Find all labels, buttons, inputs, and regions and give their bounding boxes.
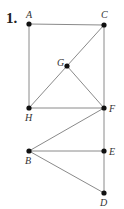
point-C <box>101 22 106 27</box>
point-A <box>26 21 31 26</box>
label-B: B <box>25 155 31 166</box>
segment-BD <box>29 151 104 193</box>
label-F: F <box>108 103 116 114</box>
point-E <box>101 148 106 153</box>
geometry-diagram: 1. ACGHFBED <box>0 0 124 209</box>
point-D <box>101 190 106 195</box>
segment-AC <box>29 24 104 25</box>
label-G: G <box>57 57 64 68</box>
label-D: D <box>99 197 108 208</box>
point-H <box>26 105 31 110</box>
point-F <box>101 105 106 110</box>
edges <box>29 24 104 193</box>
label-A: A <box>25 9 33 20</box>
problem-number: 1. <box>6 10 18 26</box>
label-C: C <box>101 9 108 20</box>
label-H: H <box>24 112 33 123</box>
point-B <box>26 148 31 153</box>
point-G <box>64 63 69 68</box>
segment-BF <box>29 108 104 151</box>
segment-GF <box>67 66 104 108</box>
label-E: E <box>108 146 115 157</box>
